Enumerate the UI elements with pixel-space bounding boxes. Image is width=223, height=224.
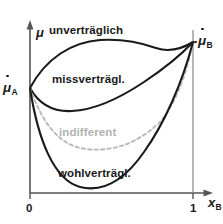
x-tick-label-zero: 0 bbox=[26, 203, 32, 215]
y-axis-label: μ bbox=[36, 26, 44, 39]
endpoint-label-mu-a: μA bbox=[3, 80, 17, 95]
endpoint-marker-b bbox=[194, 41, 197, 44]
mu-b-symbol: μ bbox=[198, 33, 206, 48]
mu-b-overdot bbox=[201, 28, 204, 31]
curve-label-missvertraegl: missverträgl. bbox=[52, 74, 125, 86]
phase-diagram-figure: μ xB 0 1 μA μB unverträglich missverträg… bbox=[0, 0, 223, 224]
mu-a-symbol: μ bbox=[3, 80, 11, 95]
endpoint-label-mu-b: μB bbox=[198, 33, 212, 48]
mu-a-subscript: A bbox=[11, 87, 17, 97]
x-axis-label-text: x bbox=[208, 195, 215, 210]
mu-b-subscript: B bbox=[206, 40, 212, 50]
x-tick-label-one: 1 bbox=[190, 203, 196, 215]
curve-label-indifferent: indifferent bbox=[59, 127, 116, 139]
y-axis-arrowhead bbox=[27, 20, 34, 30]
curve-label-unvertraeglich: unverträglich bbox=[49, 25, 123, 37]
x-axis-label-subscript: B bbox=[216, 202, 222, 212]
mu-a-overdot bbox=[6, 75, 9, 78]
x-axis-label: xB bbox=[208, 196, 221, 209]
curve-label-wohlvertraegl: wohlverträgl. bbox=[58, 168, 131, 180]
